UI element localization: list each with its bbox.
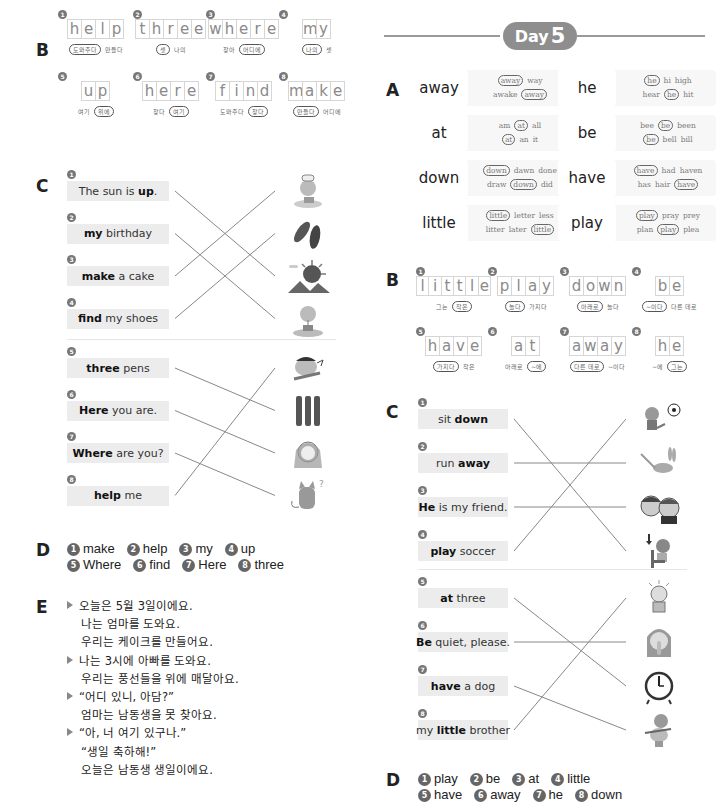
answer-text: at bbox=[528, 771, 539, 786]
answer-number: 8 bbox=[575, 789, 588, 802]
answer-text: have bbox=[434, 787, 462, 802]
translation-line: 오늘은 남동생 생일이에요. bbox=[81, 761, 213, 777]
answer-number: 1 bbox=[418, 773, 431, 786]
answer: 5have bbox=[418, 787, 462, 802]
answer: 1play bbox=[418, 771, 458, 786]
answer-text: be bbox=[486, 771, 500, 786]
answer-number: 5 bbox=[418, 789, 431, 802]
answer-number: 7 bbox=[533, 789, 546, 802]
answer-text: away bbox=[490, 787, 520, 802]
answer-text: down bbox=[591, 787, 622, 802]
match-line bbox=[514, 598, 626, 730]
answer: 8down bbox=[575, 787, 622, 802]
match-line bbox=[514, 686, 626, 730]
section-d-letter: D bbox=[386, 770, 400, 790]
right-match-lines bbox=[0, 0, 725, 760]
translation-text: 오늘은 남동생 생일이에요. bbox=[81, 763, 213, 777]
answer-number: 3 bbox=[512, 773, 525, 786]
answer: 7he bbox=[533, 787, 563, 802]
answer-text: play bbox=[434, 771, 458, 786]
answer-row: 5have6away7he8down bbox=[418, 787, 634, 802]
answer: 4little bbox=[551, 771, 590, 786]
answer-number: 2 bbox=[470, 773, 483, 786]
answer-text: he bbox=[549, 787, 563, 802]
answer-text: little bbox=[567, 771, 590, 786]
answer-number: 6 bbox=[474, 789, 487, 802]
answer: 3at bbox=[512, 771, 539, 786]
answer-number: 4 bbox=[551, 773, 564, 786]
answer: 2be bbox=[470, 771, 500, 786]
answer-row: 1play2be3at4little bbox=[418, 771, 602, 786]
answer: 6away bbox=[474, 787, 520, 802]
